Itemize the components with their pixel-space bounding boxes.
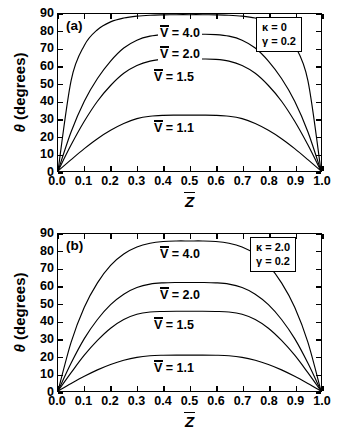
x-tick-b (137, 234, 138, 239)
y-tick-label-a: 50 (30, 78, 54, 91)
gamma-symbol-a: γ (262, 35, 268, 47)
y-tick-label-a: 70 (30, 42, 54, 55)
x-tick-a (269, 166, 270, 171)
panel-tag-b: (b) (66, 239, 83, 253)
y-tick-a (316, 13, 321, 14)
x-tick-a (110, 14, 111, 19)
y-tick-b (316, 339, 321, 340)
x-axis-title-b: Z (57, 414, 322, 429)
y-axis-theta-a: θ (11, 124, 28, 132)
x-tick-b (243, 386, 244, 391)
vbar-symbol-a-1: V (160, 48, 168, 61)
x-tick-label-b: 1.0 (302, 395, 339, 408)
curve-label-b-3: V = 1.1 (152, 362, 196, 375)
y-tick-a (316, 49, 321, 50)
kappa-symbol-a: κ (262, 21, 268, 33)
vbar-eq-b-0: = 4.0 (172, 247, 200, 261)
x-tick-a (190, 166, 191, 171)
y-tick-label-b: 80 (30, 245, 54, 258)
panel-a: 0102030405060708090 0.00.10.20.30.40.50.… (0, 0, 339, 220)
y-tick-b (316, 269, 321, 270)
y-tick-a (58, 31, 63, 32)
x-tick-b (322, 234, 323, 239)
y-tick-a (58, 84, 63, 85)
x-tick-label-a: 1.0 (302, 175, 339, 188)
x-tick-b (110, 386, 111, 391)
y-tick-b (316, 322, 321, 323)
x-tick-b (190, 234, 191, 239)
y-tick-label-b: 10 (30, 368, 54, 381)
y-tick-b (58, 304, 63, 305)
legend-row-gamma-b: γ = 0.2 (256, 254, 290, 268)
x-tick-a (243, 14, 244, 19)
x-tick-b (296, 386, 297, 391)
y-tick-a (58, 66, 63, 67)
y-tick-label-a: 60 (30, 60, 54, 73)
y-tick-label-b: 90 (30, 227, 54, 240)
y-tick-b (316, 233, 321, 234)
kappa-eq-b: = (265, 241, 271, 253)
x-tick-b (216, 386, 217, 391)
x-tick-a (57, 14, 58, 19)
y-axis-title-b: θ (degrees) (12, 263, 27, 363)
y-tick-label-a: 30 (30, 113, 54, 126)
y-axis-units-a: (degrees) (11, 52, 28, 120)
vbar-symbol-b-3: V (154, 362, 162, 375)
legend-row-kappa-b: κ = 2.0 (256, 240, 290, 254)
x-tick-b (269, 386, 270, 391)
x-tick-b (57, 234, 58, 239)
y-tick-label-a: 80 (30, 25, 54, 38)
x-tick-b (216, 234, 217, 239)
vbar-eq-a-2: = 1.5 (166, 70, 194, 84)
y-tick-label-b: 30 (30, 333, 54, 346)
y-tick-labels-b: 0102030405060708090 (28, 233, 54, 392)
y-axis-title-a: θ (degrees) (12, 43, 27, 143)
y-tick-b (58, 322, 63, 323)
x-tick-a (163, 14, 164, 19)
y-tick-b (58, 269, 63, 270)
y-tick-b (316, 304, 321, 305)
y-tick-a (316, 66, 321, 67)
legend-row-gamma-a: γ = 0.2 (262, 34, 296, 48)
y-tick-a (58, 102, 63, 103)
y-tick-b (58, 357, 63, 358)
kappa-symbol-b: κ (256, 241, 262, 253)
x-axis-title-a: Z (57, 194, 322, 209)
legend-box-a: κ = 0 γ = 0.2 (256, 17, 302, 52)
y-tick-a (58, 155, 63, 156)
x-tick-a (216, 166, 217, 171)
x-tick-a (84, 166, 85, 171)
x-tick-a (163, 166, 164, 171)
x-tick-b (190, 386, 191, 391)
x-tick-a (322, 14, 323, 19)
curve-label-b-2: V = 1.5 (152, 319, 196, 332)
curve-label-a-3: V = 1.1 (152, 122, 196, 135)
y-tick-label-b: 50 (30, 298, 54, 311)
x-tick-a (190, 14, 191, 19)
vbar-symbol-a-2: V (154, 71, 162, 84)
curve-label-a-2: V = 1.5 (152, 71, 196, 84)
vbar-eq-b-1: = 2.0 (172, 288, 200, 302)
y-tick-b (58, 251, 63, 252)
x-tick-a (243, 166, 244, 171)
y-tick-b (58, 375, 63, 376)
y-tick-a (58, 137, 63, 138)
vbar-symbol-b-2: V (154, 319, 162, 332)
gamma-symbol-b: γ (256, 255, 262, 267)
y-tick-label-a: 40 (30, 95, 54, 108)
y-tick-b (316, 286, 321, 287)
x-tick-a (110, 166, 111, 171)
x-tick-b (84, 386, 85, 391)
vbar-eq-a-1: = 2.0 (172, 47, 200, 61)
y-tick-b (58, 233, 63, 234)
y-tick-label-a: 20 (30, 131, 54, 144)
x-tick-b (243, 234, 244, 239)
y-tick-a (316, 102, 321, 103)
y-tick-a (316, 155, 321, 156)
y-tick-a (316, 31, 321, 32)
x-tick-labels-a: 0.00.10.20.30.40.50.60.70.80.91.0 (57, 175, 322, 191)
y-tick-label-a: 90 (30, 7, 54, 20)
x-tick-b (110, 234, 111, 239)
vbar-eq-a-0: = 4.0 (172, 26, 200, 40)
kappa-eq-a: = (271, 21, 277, 33)
